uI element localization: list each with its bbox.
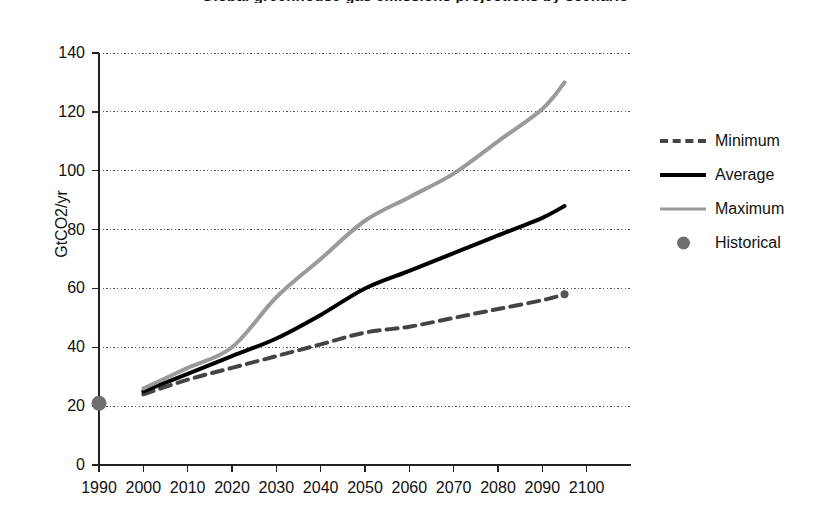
chart-legend: Minimum Average Maximum Historical	[660, 124, 810, 260]
axes	[99, 53, 631, 465]
legend-label-minimum: Minimum	[715, 132, 780, 150]
solid-black-line-key	[660, 168, 706, 182]
plot-canvas	[0, 0, 818, 525]
historical-data-point	[92, 396, 107, 411]
series-line-average	[143, 206, 564, 391]
legend-item-historical: Historical	[660, 226, 810, 260]
legend-label-maximum: Maximum	[715, 200, 784, 218]
x-axis-ticks	[99, 465, 587, 472]
series-endpoint-marker	[561, 290, 569, 298]
dot-marker-key	[660, 236, 706, 250]
chart-figure: Global greenhouse gas emissions projecti…	[0, 0, 818, 525]
legend-label-historical: Historical	[715, 234, 781, 252]
legend-item-maximum: Maximum	[660, 192, 810, 226]
legend-item-average: Average	[660, 158, 810, 192]
data-series-layer	[143, 82, 564, 394]
solid-gray-line-key	[660, 202, 706, 216]
series-line-minimum	[143, 294, 564, 394]
y-axis-label: GtCO2/yr	[53, 144, 71, 304]
legend-item-minimum: Minimum	[660, 124, 810, 158]
legend-label-average: Average	[715, 166, 774, 184]
gridlines	[99, 53, 631, 406]
dashed-line-key	[660, 134, 706, 148]
